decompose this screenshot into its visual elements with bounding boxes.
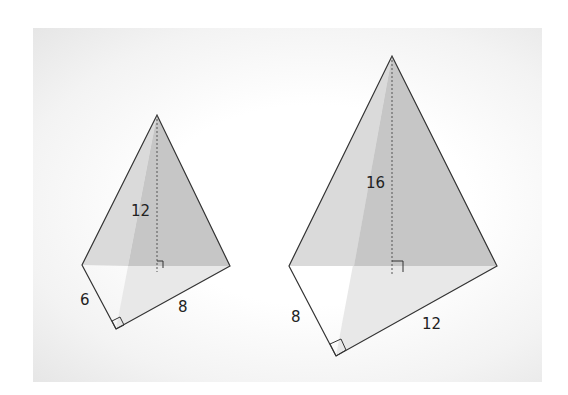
pyramids-diagram: 12 6 8 16 8 12 <box>0 0 568 395</box>
leg-a-label: 6 <box>80 291 90 309</box>
small-pyramid: 12 6 8 <box>80 115 230 329</box>
height-label: 12 <box>131 202 150 220</box>
height-label: 16 <box>366 174 385 192</box>
leg-a-label: 8 <box>291 308 301 326</box>
right-face <box>128 115 230 266</box>
leg-b-label: 8 <box>178 298 188 316</box>
leg-b-label: 12 <box>422 315 441 333</box>
right-face <box>354 56 497 266</box>
large-pyramid: 16 8 12 <box>289 56 497 356</box>
